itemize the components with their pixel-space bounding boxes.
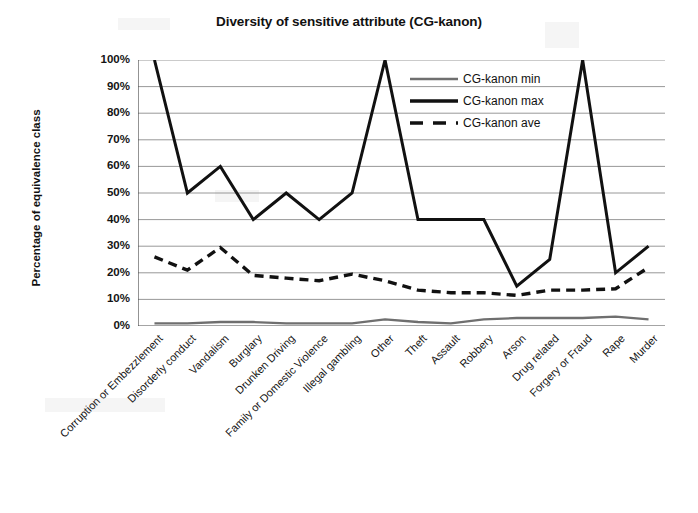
legend-item-0[interactable]: CG-kanon min bbox=[408, 68, 608, 90]
series-line-0 bbox=[154, 317, 648, 324]
legend-item-2[interactable]: CG-kanon ave bbox=[408, 112, 608, 134]
legend-swatch-svg bbox=[408, 73, 460, 85]
legend-item-label: CG-kanon ave bbox=[460, 116, 540, 130]
x-axis-tick-label-text: Rape bbox=[600, 330, 629, 359]
y-axis-tick-label: 0% bbox=[86, 320, 130, 332]
y-axis-tick-label: 10% bbox=[86, 293, 130, 305]
legend-swatch-svg bbox=[408, 95, 460, 107]
x-axis-tick-label-text: Other bbox=[369, 330, 399, 360]
x-axis-tick-label-text: Theft bbox=[403, 330, 431, 358]
x-axis-tick-label: Theft bbox=[403, 330, 431, 358]
series-line-2 bbox=[154, 248, 648, 296]
y-axis-tick-label: 50% bbox=[86, 187, 130, 199]
y-axis-tick-label: 70% bbox=[86, 134, 130, 146]
x-axis-tick-label-text: Murder bbox=[627, 330, 662, 365]
x-axis-tick-label: Arson bbox=[500, 330, 531, 361]
x-axis-tick-label-text: Arson bbox=[500, 330, 531, 361]
y-axis-tick-label: 100% bbox=[86, 54, 130, 66]
legend-swatch-svg bbox=[408, 117, 460, 129]
x-axis-tick-label: Rape bbox=[600, 330, 629, 359]
x-axis-tick-label-text: Forgery or Fraud bbox=[527, 330, 596, 399]
chart-figure: Diversity of sensitive attribute (CG-kan… bbox=[0, 0, 698, 513]
y-axis-tick-label: 40% bbox=[86, 214, 130, 226]
x-axis-tick-label: Forgery or Fraud bbox=[527, 330, 596, 399]
y-axis-tick-label: 80% bbox=[86, 107, 130, 119]
x-axis-tick-label: Other bbox=[369, 330, 399, 360]
legend-line-swatch bbox=[408, 117, 460, 129]
legend-item-1[interactable]: CG-kanon max bbox=[408, 90, 608, 112]
y-axis-tick-label: 60% bbox=[86, 160, 130, 172]
y-axis-title: Percentage of equivalence class bbox=[30, 88, 42, 308]
chart-legend: CG-kanon minCG-kanon maxCG-kanon ave bbox=[408, 68, 608, 134]
x-axis-tick-label: Illegal gambling bbox=[301, 330, 366, 395]
y-axis-tick-labels: 100%90%80%70%60%50%40%30%20%10%0% bbox=[86, 0, 130, 513]
legend-line-swatch bbox=[408, 95, 460, 107]
legend-line-swatch bbox=[408, 73, 460, 85]
y-axis-tick-label: 20% bbox=[86, 267, 130, 279]
y-axis-tick-label: 90% bbox=[86, 81, 130, 93]
legend-item-label: CG-kanon min bbox=[460, 72, 540, 86]
x-axis-tick-label-text: Illegal gambling bbox=[301, 330, 366, 395]
x-axis-tick-label: Murder bbox=[627, 330, 662, 365]
legend-item-label: CG-kanon max bbox=[460, 94, 544, 108]
x-axis-tick-labels: Corruption or EmbezzlementDisorderly con… bbox=[138, 330, 678, 510]
y-axis-tick-label: 30% bbox=[86, 240, 130, 252]
